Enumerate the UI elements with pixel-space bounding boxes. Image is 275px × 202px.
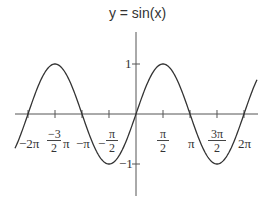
neg3half-num: −3 bbox=[47, 128, 61, 140]
x-tick-label-pi: π bbox=[188, 137, 195, 150]
y-tick-label-neg1: −1 bbox=[119, 157, 133, 170]
y-tick-label-1: 1 bbox=[125, 57, 132, 70]
x-tick-label-3half: 3π 2 bbox=[208, 128, 226, 154]
x-tick-label-neg2pi: −2π bbox=[19, 137, 39, 150]
neghalf-sign: − bbox=[98, 137, 105, 150]
neghalf-num: π bbox=[106, 128, 118, 140]
neghalf-den: 2 bbox=[106, 140, 118, 154]
chart-title: y = sin(x) bbox=[0, 5, 275, 21]
neg3half-pi: π bbox=[63, 137, 70, 150]
x-tick-label-2pi: 2π bbox=[238, 137, 251, 150]
x-tick-label-half: π 2 bbox=[157, 128, 169, 154]
neg3half-den: 2 bbox=[47, 140, 61, 154]
sine-chart bbox=[0, 0, 275, 202]
x-tick-label-negpi: −π bbox=[76, 137, 90, 150]
